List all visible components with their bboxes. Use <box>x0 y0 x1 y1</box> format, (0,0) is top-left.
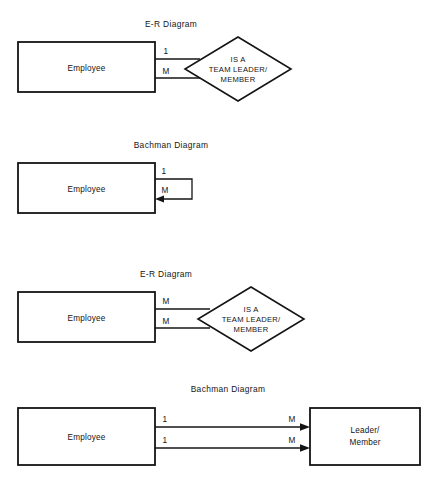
figure-1-cardinality-bottom: M <box>162 67 169 76</box>
figure-2-entity-label: Employee <box>67 185 105 194</box>
figure-4-arrowhead-bottom <box>300 444 310 452</box>
figure-3-title: E-R Diagram <box>140 269 192 279</box>
figure-2-cardinality-bottom: M <box>161 186 168 195</box>
figure-1-entity-label: Employee <box>67 64 105 73</box>
diagram-canvas: E-R Diagram Employee 1 M IS A TEAM LEADE… <box>0 0 444 482</box>
figure-2-cardinality-top: 1 <box>162 167 167 176</box>
figure-1-relationship-line-2: TEAM LEADER/ <box>209 65 268 74</box>
figure-4-entity-right-line-2: Member <box>349 438 380 447</box>
figure-1-relationship-line-3: MEMBER <box>221 75 256 84</box>
figure-1-er-diagram: E-R Diagram Employee 1 M IS A TEAM LEADE… <box>18 19 291 101</box>
figure-4-cardinality-right-bottom: M <box>288 436 295 445</box>
figure-4-cardinality-left-top: 1 <box>163 415 168 424</box>
figure-3-relationship-line-1: IS A <box>244 305 260 314</box>
figure-4-entity-right-box <box>310 408 420 465</box>
figure-1-cardinality-top: 1 <box>164 47 169 56</box>
figure-3-cardinality-top: M <box>162 297 169 306</box>
figure-2-bachman-diagram: Bachman Diagram Employee 1 M <box>18 140 208 213</box>
figure-4-title: Bachman Diagram <box>191 384 266 394</box>
figure-1-title: E-R Diagram <box>145 19 197 29</box>
figure-3-relationship-line-3: MEMBER <box>234 325 269 334</box>
figure-4-cardinality-left-bottom: 1 <box>163 436 168 445</box>
diagram-page: E-R Diagram Employee 1 M IS A TEAM LEADE… <box>0 0 444 482</box>
figure-4-bachman-diagram: Bachman Diagram Employee Leader/ Member … <box>18 384 420 465</box>
figure-2-loop-arrowhead <box>155 195 164 202</box>
figure-2-title: Bachman Diagram <box>134 140 209 150</box>
figure-4-entity-right-line-1: Leader/ <box>350 426 380 435</box>
figure-3-relationship-line-2: TEAM LEADER/ <box>222 315 281 324</box>
figure-4-entity-left-label: Employee <box>67 433 105 442</box>
figure-3-er-diagram: E-R Diagram Employee M M IS A TEAM LEADE… <box>18 269 304 351</box>
figure-1-relationship-line-1: IS A <box>231 55 247 64</box>
figure-3-cardinality-bottom: M <box>162 317 169 326</box>
figure-4-arrowhead-top <box>300 423 310 431</box>
figure-3-entity-label: Employee <box>67 314 105 323</box>
figure-4-cardinality-right-top: M <box>288 415 295 424</box>
